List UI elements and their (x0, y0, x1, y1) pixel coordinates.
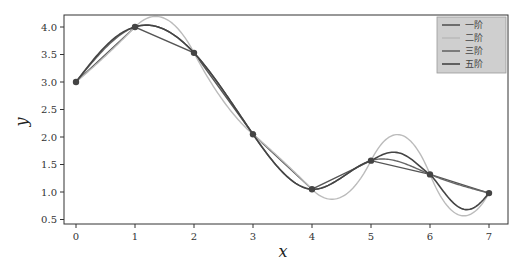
data-point (309, 186, 315, 192)
x-tick-label: 0 (73, 231, 79, 242)
data-point (132, 24, 138, 30)
data-point (427, 171, 433, 177)
data-point (486, 190, 492, 196)
data-point (368, 157, 374, 163)
x-tick-label: 4 (309, 231, 315, 242)
y-tick-label: 0.5 (41, 214, 57, 225)
y-tick-label: 4.0 (41, 22, 57, 33)
y-tick-label: 3.0 (41, 77, 57, 88)
x-axis-label: x (278, 242, 287, 261)
x-tick-label: 7 (486, 231, 492, 242)
x-tick-label: 3 (250, 231, 256, 242)
x-tick-label: 5 (368, 231, 374, 242)
data-point (250, 131, 256, 137)
interpolation-chart: 0.51.01.52.02.53.03.54.0 01234567 x y 一阶… (0, 0, 523, 271)
legend: 一阶 二阶 三阶 五阶 (437, 17, 506, 73)
svg-text:一阶: 一阶 (465, 19, 483, 30)
x-tick-label: 1 (132, 231, 138, 242)
y-tick-label: 3.5 (41, 49, 57, 60)
svg-text:三阶: 三阶 (465, 45, 483, 56)
y-tick-label: 1.0 (41, 187, 57, 198)
data-point (73, 79, 79, 85)
y-axis-label: y (12, 117, 31, 128)
data-point (191, 50, 197, 56)
svg-text:五阶: 五阶 (465, 58, 483, 69)
svg-text:二阶: 二阶 (465, 32, 483, 43)
y-tick-label: 2.0 (41, 132, 57, 143)
x-tick-label: 2 (191, 231, 197, 242)
y-tick-label: 1.5 (41, 159, 57, 170)
x-tick-label: 6 (427, 231, 433, 242)
y-tick-label: 2.5 (41, 104, 57, 115)
